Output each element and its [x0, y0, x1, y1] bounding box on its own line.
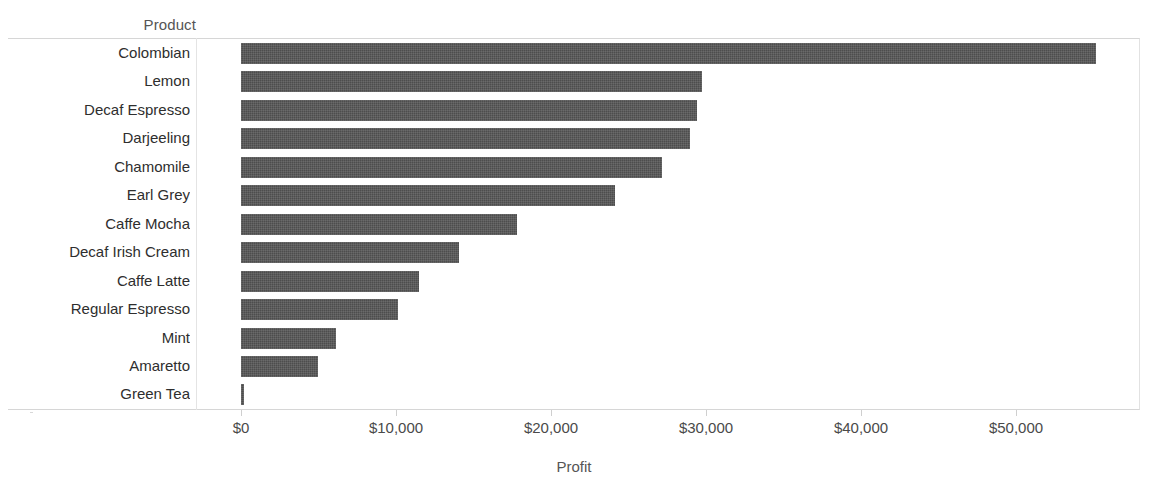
x-axis-tick-label: $10,000 — [369, 419, 423, 436]
bar-track — [241, 238, 1140, 266]
x-axis-title: Profit — [8, 458, 1140, 475]
bar[interactable] — [241, 43, 1096, 64]
bar-row[interactable]: Colombian — [0, 39, 1158, 67]
axis-stub-mark — [30, 412, 33, 413]
category-label[interactable]: Chamomile — [0, 153, 190, 181]
category-label[interactable]: Caffe Latte — [0, 267, 190, 295]
bar[interactable] — [241, 157, 662, 178]
bar-row[interactable]: Decaf Espresso — [0, 96, 1158, 124]
x-axis-tick — [861, 410, 862, 416]
category-label[interactable]: Caffe Mocha — [0, 210, 190, 238]
bar-track — [241, 153, 1140, 181]
bar-row[interactable]: Earl Grey — [0, 181, 1158, 209]
bar-row[interactable]: Mint — [0, 324, 1158, 352]
bar-track — [241, 324, 1140, 352]
category-label[interactable]: Colombian — [0, 39, 190, 67]
bar-track — [241, 181, 1140, 209]
bar-chart-view: Product ColombianLemonDecaf EspressoDarj… — [0, 0, 1158, 490]
bar-track — [241, 380, 1140, 408]
category-label[interactable]: Amaretto — [0, 352, 190, 380]
bar-row[interactable]: Caffe Mocha — [0, 210, 1158, 238]
bar-row[interactable]: Regular Espresso — [0, 295, 1158, 323]
category-label[interactable]: Lemon — [0, 67, 190, 95]
bar-track — [241, 210, 1140, 238]
product-field-caption: Product — [0, 16, 196, 33]
bar[interactable] — [241, 384, 244, 405]
bar-row[interactable]: Caffe Latte — [0, 267, 1158, 295]
category-label[interactable]: Earl Grey — [0, 181, 190, 209]
bar-track — [241, 352, 1140, 380]
category-label[interactable]: Green Tea — [0, 380, 190, 408]
bar-track — [241, 39, 1140, 67]
bar[interactable] — [241, 214, 517, 235]
bar-row[interactable]: Decaf Irish Cream — [0, 238, 1158, 266]
bar-row[interactable]: Lemon — [0, 67, 1158, 95]
bar-row[interactable]: Chamomile — [0, 153, 1158, 181]
bar-track — [241, 96, 1140, 124]
category-label[interactable]: Mint — [0, 324, 190, 352]
x-axis-tick-label: $0 — [233, 419, 250, 436]
x-axis-tick-label: $50,000 — [989, 419, 1043, 436]
bar-row[interactable]: Green Tea — [0, 380, 1158, 408]
bar-track — [241, 124, 1140, 152]
bar[interactable] — [241, 328, 336, 349]
bar[interactable] — [241, 271, 419, 292]
bar-track — [241, 295, 1140, 323]
x-axis-tick — [706, 410, 707, 416]
x-axis-tick — [551, 410, 552, 416]
x-axis-tick-label: $30,000 — [679, 419, 733, 436]
bar-track — [241, 67, 1140, 95]
x-axis: $0$10,000$20,000$30,000$40,000$50,000 — [8, 410, 1140, 450]
x-axis-tick — [396, 410, 397, 416]
bar-row[interactable]: Amaretto — [0, 352, 1158, 380]
bar[interactable] — [241, 71, 702, 92]
bar[interactable] — [241, 356, 318, 377]
bar-track — [241, 267, 1140, 295]
category-label[interactable]: Darjeeling — [0, 124, 190, 152]
bar[interactable] — [241, 100, 697, 121]
category-label[interactable]: Decaf Irish Cream — [0, 238, 190, 266]
bar[interactable] — [241, 299, 398, 320]
category-label[interactable]: Regular Espresso — [0, 295, 190, 323]
x-axis-tick-label: $40,000 — [834, 419, 888, 436]
x-axis-tick — [241, 410, 242, 416]
category-label[interactable]: Decaf Espresso — [0, 96, 190, 124]
bar-rows: ColombianLemonDecaf EspressoDarjeelingCh… — [0, 39, 1158, 409]
x-axis-tick-label: $20,000 — [524, 419, 578, 436]
bar-row[interactable]: Darjeeling — [0, 124, 1158, 152]
bar[interactable] — [241, 128, 690, 149]
bar[interactable] — [241, 185, 615, 206]
x-axis-tick — [1016, 410, 1017, 416]
bar[interactable] — [241, 242, 459, 263]
